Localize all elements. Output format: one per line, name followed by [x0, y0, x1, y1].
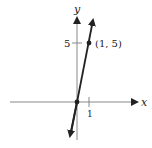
y-tick-label-5: 5 [64, 38, 70, 49]
origin-point [75, 100, 80, 105]
x-tick-label-1: 1 [87, 109, 93, 119]
point-1-5 [87, 41, 92, 46]
point-label: (1, 5) [95, 38, 122, 49]
line-lower-arrow [70, 102, 77, 136]
x-axis-label: x [141, 96, 148, 109]
y-axis-label: y [73, 3, 81, 16]
graph-canvas: y x 5 1 (1, 5) [0, 0, 152, 148]
